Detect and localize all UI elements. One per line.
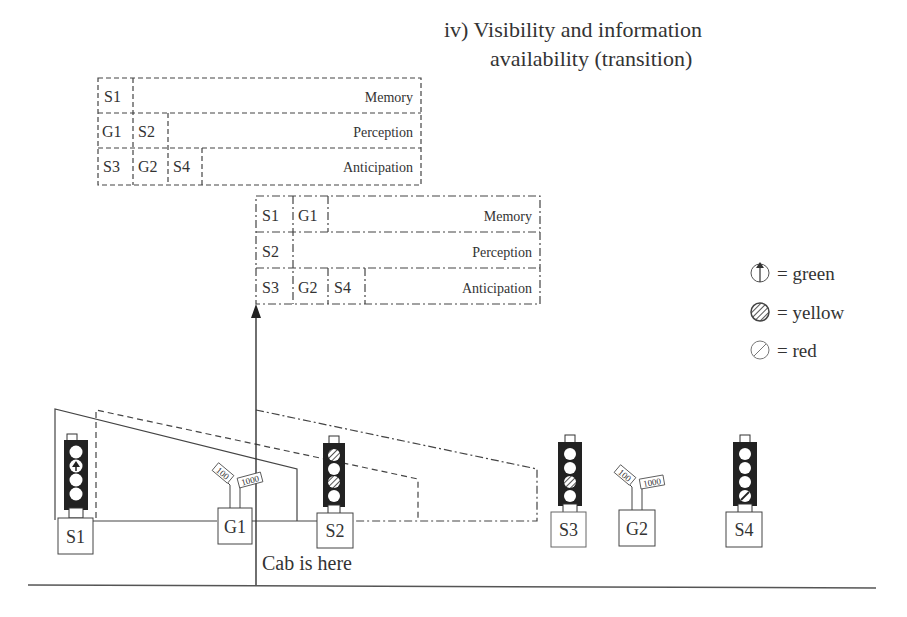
sign-g1-label: G1 (224, 517, 246, 537)
panel-right-row3-label: Anticipation (462, 281, 532, 296)
sign-g2-1000: 1000 (642, 476, 662, 489)
yellow-light-icon (328, 476, 340, 488)
ground-line (28, 585, 876, 588)
title-line1: iv) Visibility and information (444, 17, 702, 42)
sign-g2-label: G2 (626, 519, 648, 539)
legend-green-text: = green (777, 263, 835, 284)
green-light-icon (751, 262, 769, 282)
panel-right-row1-cell2: G1 (298, 207, 318, 224)
yellow-light-icon (751, 303, 769, 321)
visibility-zone-dashed (96, 410, 418, 521)
panel-left-row2-cell2: S2 (138, 123, 155, 140)
panel-left-row2-label: Perception (353, 125, 413, 140)
red-light-icon (751, 341, 769, 359)
panel-left-row1-cell1: S1 (104, 88, 121, 105)
panel-left-row3-label: Anticipation (343, 160, 413, 175)
red-light-icon (739, 490, 751, 502)
signal-s1-label: S1 (66, 527, 85, 547)
panel-left-row1-label: Memory (365, 90, 413, 105)
signal-s2-label: S2 (325, 521, 344, 541)
signal-s4-label: S4 (734, 520, 753, 540)
title-line2: availability (transition) (490, 46, 692, 71)
panel-left-row3-cell2: G2 (138, 158, 158, 175)
panel-left-row3-cell3: S4 (173, 158, 190, 175)
panel-right-row2-label: Perception (472, 245, 532, 260)
panel-right-row1-cell1: S1 (262, 207, 279, 224)
diagram-canvas: iv) Visibility and information availabil… (0, 0, 907, 617)
panel-right-row1-label: Memory (484, 209, 532, 224)
panel-right-row3-cell2: G2 (298, 279, 318, 296)
visibility-zone-solid (55, 409, 297, 521)
legend-red-text: = red (777, 340, 817, 361)
panel-right-row2-cell1: S2 (262, 243, 279, 260)
cab-arrow-icon (251, 304, 261, 318)
panel-right-row3-cell3: S4 (334, 279, 351, 296)
legend-yellow-text: = yellow (777, 302, 844, 323)
panel-right-row3-cell1: S3 (262, 279, 279, 296)
visibility-zone-dashdot (256, 410, 537, 521)
panel-left-row2-cell1: G1 (102, 123, 122, 140)
cab-label: Cab is here (262, 552, 352, 574)
green-light-icon (70, 460, 83, 473)
panel-left-row3-cell1: S3 (103, 158, 120, 175)
sign-g1-1000: 1000 (240, 473, 260, 487)
signal-s3-label: S3 (559, 520, 578, 540)
yellow-light-icon (564, 476, 576, 488)
diagram-svg: iv) Visibility and information availabil… (0, 0, 907, 617)
legend: = green = yellow = red (751, 262, 844, 361)
yellow-light-icon (328, 449, 340, 461)
